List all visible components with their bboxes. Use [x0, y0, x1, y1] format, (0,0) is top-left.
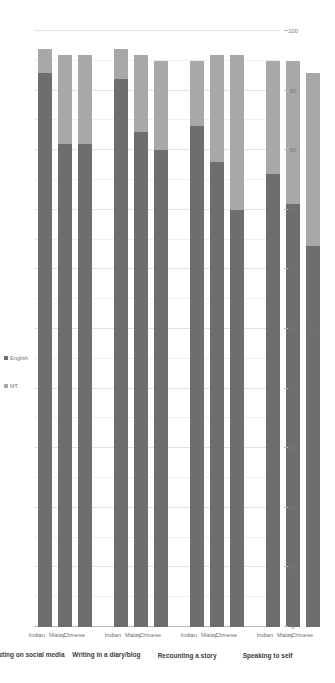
bar-segment-mt — [266, 61, 280, 174]
bar-segment-mt — [134, 55, 148, 132]
category-label-text: Indian — [181, 630, 197, 640]
bar-segment-english — [134, 132, 148, 627]
tick-label: 90 — [283, 88, 303, 94]
rotated-figure-frame: MT English 0102030405060708090100 % Indi… — [0, 0, 335, 683]
legend-label-english: English — [10, 355, 28, 361]
category-label-text: Chinese — [139, 630, 161, 640]
legend-label-mt: MT — [10, 383, 18, 389]
legend-item-mt: MT — [4, 383, 18, 389]
tick-label: 10 — [283, 564, 303, 570]
category-label-text: Chinese — [215, 630, 237, 640]
bar-segment-english — [154, 150, 168, 627]
category-label-text: Indian — [257, 630, 273, 640]
category-axis: IndianMalayChinesePosting on social medi… — [34, 629, 280, 683]
value-axis-title: % — [308, 31, 314, 627]
plot-area — [34, 31, 280, 627]
value-axis-title-text: % — [308, 326, 313, 332]
category-label-text: Chinese — [291, 630, 313, 640]
tick-label: 80 — [283, 147, 303, 153]
tick-label: 40 — [283, 386, 303, 392]
bar-segment-english — [190, 126, 204, 627]
bar-segment-mt — [154, 61, 168, 150]
bar-row — [58, 31, 72, 627]
bar-segment-english — [58, 144, 72, 627]
bar-row — [38, 31, 52, 627]
bar-row — [230, 31, 244, 627]
chart-figure: MT English 0102030405060708090100 % Indi… — [0, 0, 335, 683]
bar-segment-english — [78, 144, 92, 627]
bar-segment-mt — [58, 55, 72, 144]
bar-segment-english — [38, 73, 52, 627]
group-title-text: Recounting a story — [158, 652, 217, 659]
bar-segment-mt — [230, 55, 244, 210]
bar-segment-english — [230, 210, 244, 627]
tick-label: 100 — [283, 28, 303, 34]
bar-row — [210, 31, 224, 627]
bar-segment-english — [266, 174, 280, 627]
bar-row — [266, 31, 280, 627]
group-title-text: Speaking to self — [243, 652, 293, 659]
bar-row — [154, 31, 168, 627]
legend-swatch-mt-icon — [4, 384, 8, 388]
bar-row — [190, 31, 204, 627]
bar-segment-mt — [190, 61, 204, 127]
bar-segment-mt — [114, 49, 128, 79]
chart-legend: MT English — [4, 331, 30, 383]
tick-label: 50 — [283, 326, 303, 332]
tick-label: 30 — [283, 445, 303, 451]
category-label-text: Indian — [105, 630, 121, 640]
tick-label: 60 — [283, 266, 303, 272]
group-title-text: Writing in a diary/blog — [72, 652, 140, 659]
bar-segment-mt — [78, 55, 92, 144]
bar-segment-mt — [38, 49, 52, 73]
category-label-text: Indian — [29, 630, 45, 640]
bar-segment-english — [114, 79, 128, 627]
group-title-text: Posting on social media — [0, 652, 65, 659]
value-axis: 0102030405060708090100 — [288, 31, 304, 627]
bar-row — [78, 31, 92, 627]
bar-row — [134, 31, 148, 627]
bar-row — [114, 31, 128, 627]
legend-item-english: English — [4, 355, 28, 361]
tick-label: 20 — [283, 505, 303, 511]
tick-label: 70 — [283, 207, 303, 213]
category-label-text: Chinese — [63, 630, 85, 640]
legend-swatch-english-icon — [4, 356, 8, 360]
bar-segment-english — [210, 162, 224, 627]
bar-segment-mt — [210, 55, 224, 162]
